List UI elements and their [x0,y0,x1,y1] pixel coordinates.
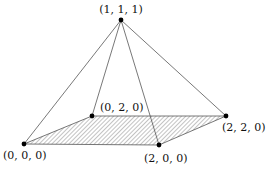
label-220: (2, 2, 0) [222,121,266,134]
pyramid-diagram: (1, 1, 1) (0, 2, 0) (2, 2, 0) (0, 0, 0) … [0,0,267,169]
point-apex [119,18,124,23]
point-220 [224,114,229,119]
label-apex: (1, 1, 1) [99,3,143,16]
point-200 [157,143,162,148]
label-000: (0, 0, 0) [3,149,47,162]
point-020 [90,114,95,119]
label-200: (2, 0, 0) [144,152,188,165]
hatched-base [24,116,226,145]
point-000 [22,142,27,147]
label-020: (0, 2, 0) [100,101,144,114]
